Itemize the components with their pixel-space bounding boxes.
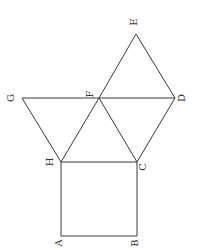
label-b: B [129,239,140,246]
geometry-diagram: ABCHGFDE [0,0,211,250]
segments [22,34,175,236]
segment-gh [22,98,61,162]
label-e: E [128,18,139,25]
label-c: C [137,163,148,171]
segment-hf [61,98,99,162]
segment-ed [136,34,175,98]
segment-fc [99,98,137,162]
label-f: F [84,90,95,97]
label-g: G [5,94,16,102]
label-a: A [53,239,64,248]
segment-cd [137,98,175,162]
segment-fe [99,34,136,98]
label-h: H [44,157,55,166]
vertex-labels: ABCHGFDE [5,18,187,247]
label-d: D [176,94,187,102]
